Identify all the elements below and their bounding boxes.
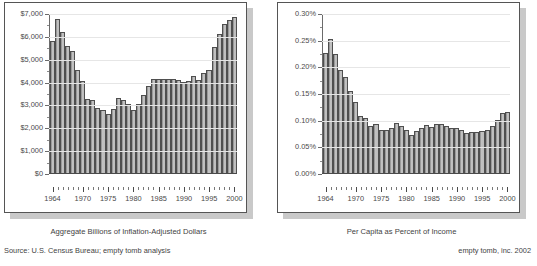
- y-tick-minor: [47, 94, 49, 95]
- x-tick-label: 1990: [449, 195, 465, 202]
- x-tick-mark: [502, 187, 503, 190]
- y-tick-label: $3,000: [20, 102, 49, 109]
- y-tick-label: $7,000: [20, 10, 49, 17]
- x-tick-mark: [219, 187, 220, 190]
- x-tick-mark: [326, 187, 327, 192]
- x-tick-mark: [452, 187, 453, 190]
- y-tick-label: $6,000: [20, 33, 49, 40]
- bar-series-left: [50, 14, 237, 173]
- x-tick-mark: [341, 187, 342, 190]
- x-axis-line: [49, 173, 237, 174]
- y-tick-minor: [320, 54, 322, 55]
- y-tick-minor: [47, 163, 49, 164]
- x-tick-slot: [505, 187, 510, 191]
- x-tick-mark: [366, 187, 367, 190]
- x-tick-mark: [401, 187, 402, 190]
- x-tick-mark: [68, 187, 69, 190]
- credit-note: empty tomb, inc. 2002: [458, 247, 531, 255]
- x-tick-mark: [133, 187, 134, 192]
- x-tick-label: 1964: [44, 195, 60, 202]
- x-tick-label: 1985: [423, 195, 439, 202]
- y-tick-label: 0.20%: [295, 64, 322, 71]
- y-tick-minor: [320, 107, 322, 108]
- x-tick-mark: [153, 187, 154, 190]
- x-tick-mark: [467, 187, 468, 190]
- x-tick-mark: [143, 187, 144, 190]
- x-tick-mark: [351, 187, 352, 190]
- x-tick-mark: [199, 187, 200, 190]
- x-tick-slot: [232, 187, 237, 191]
- y-tick-minor: [320, 134, 322, 135]
- x-tick-mark: [432, 187, 433, 192]
- x-tick-mark: [331, 187, 332, 190]
- x-tick-mark: [164, 187, 165, 190]
- y-tick-label: 0.30%: [295, 10, 322, 17]
- x-tick-mark: [128, 187, 129, 190]
- x-axis-line: [322, 173, 510, 174]
- x-tick-mark: [386, 187, 387, 190]
- x-tick-mark: [174, 187, 175, 190]
- y-tick-minor: [47, 117, 49, 118]
- x-tick-mark: [214, 187, 215, 190]
- gridline: [49, 83, 237, 84]
- gridline: [322, 121, 510, 122]
- y-tick-label: 0.15%: [295, 90, 322, 97]
- y-tick-label: $1,000: [20, 147, 49, 154]
- x-tick-label: 1970: [348, 195, 364, 202]
- y-tick-minor: [47, 48, 49, 49]
- y-tick-label: $2,000: [20, 125, 49, 132]
- x-tick-mark: [442, 187, 443, 190]
- gridline: [322, 94, 510, 95]
- plot-area-right: 0.00%0.05%0.10%0.15%0.20%0.25%0.30%: [322, 14, 510, 174]
- x-tick-mark: [159, 187, 160, 192]
- x-tick-mark: [123, 187, 124, 190]
- plot-area-left: $0$1,000$2,000$3,000$4,000$5,000$6,000$7…: [49, 14, 237, 174]
- x-tick-label: 1964: [317, 195, 333, 202]
- gridline: [322, 14, 510, 15]
- bar-slot: [232, 14, 237, 173]
- x-tick-mark: [421, 187, 422, 190]
- gridline: [49, 105, 237, 106]
- y-tick-label: $5,000: [20, 56, 49, 63]
- y-tick-minor: [320, 27, 322, 28]
- gridline: [49, 151, 237, 152]
- panel-frame: 0.00%0.05%0.10%0.15%0.20%0.25%0.30% 1964…: [277, 2, 520, 213]
- x-tick-mark: [58, 187, 59, 190]
- y-tick-minor: [320, 81, 322, 82]
- x-tick-mark: [138, 187, 139, 190]
- x-tick-mark: [346, 187, 347, 190]
- x-tick-mark: [416, 187, 417, 190]
- caption-left: Aggregate Billions of Inflation-Adjusted…: [4, 228, 253, 236]
- panel-frame: $0$1,000$2,000$3,000$4,000$5,000$6,000$7…: [4, 2, 247, 213]
- x-tick-mark: [497, 187, 498, 190]
- x-tick-mark: [482, 187, 483, 192]
- x-tick-mark: [492, 187, 493, 190]
- x-tick-mark: [381, 187, 382, 192]
- x-tick-mark: [477, 187, 478, 190]
- x-tick-mark: [118, 187, 119, 190]
- x-tick-label: 1980: [398, 195, 414, 202]
- x-tick-label: 1970: [75, 195, 91, 202]
- chart-panel-per-capita-percent: 0.00%0.05%0.10%0.15%0.20%0.25%0.30% 1964…: [277, 2, 526, 218]
- x-tick-mark: [437, 187, 438, 190]
- x-tick-mark: [472, 187, 473, 190]
- x-tick-mark: [487, 187, 488, 190]
- gridline: [49, 37, 237, 38]
- y-tick-minor: [47, 25, 49, 26]
- x-tick-mark: [98, 187, 99, 190]
- x-tick-label: 1995: [201, 195, 217, 202]
- plot-inner-left: $0$1,000$2,000$3,000$4,000$5,000$6,000$7…: [49, 14, 237, 174]
- x-tick-label: 1995: [474, 195, 490, 202]
- x-tick-mark: [83, 187, 84, 192]
- x-tick-mark: [507, 187, 508, 192]
- x-tick-mark: [447, 187, 448, 190]
- gridline: [322, 67, 510, 68]
- x-tick-mark: [426, 187, 427, 190]
- x-tick-label: 1975: [373, 195, 389, 202]
- x-tick-mark: [371, 187, 372, 190]
- x-tick-row: [50, 187, 237, 191]
- gridline: [49, 128, 237, 129]
- y-tick-label: $0: [35, 170, 49, 177]
- x-tick-mark: [396, 187, 397, 190]
- y-tick-minor: [47, 140, 49, 141]
